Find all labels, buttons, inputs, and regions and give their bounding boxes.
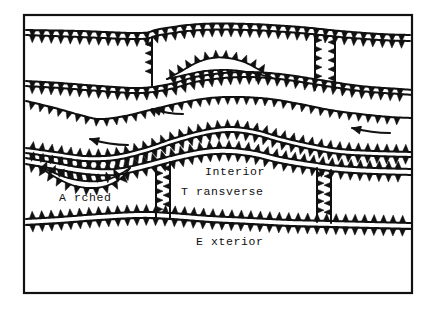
figure-root: Interior T ransverse A rched E xterior bbox=[0, 0, 438, 316]
label-exterior: E xterior bbox=[196, 236, 264, 248]
label-arched: A rched bbox=[59, 192, 112, 204]
cross-section-diagram bbox=[0, 0, 438, 316]
label-interior: Interior bbox=[205, 166, 265, 178]
label-transverse: T ransverse bbox=[181, 186, 264, 198]
